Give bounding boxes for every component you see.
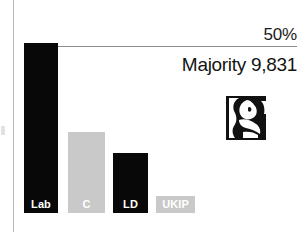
bar-ld[interactable]: LD <box>113 153 148 213</box>
bars-plot-area: Lab C LD UKIP <box>0 0 302 232</box>
bar-lab[interactable]: Lab <box>24 43 58 213</box>
bar-ukip[interactable]: UKIP <box>156 196 195 213</box>
election-result-chart: 50% Majority 9,831 Lab <box>0 0 302 232</box>
bar-label-ld: LD <box>113 197 148 213</box>
bar-c[interactable]: C <box>68 132 105 213</box>
bar-label-ukip: UKIP <box>156 197 195 213</box>
bar-label-lab: Lab <box>24 197 58 213</box>
bar-label-c: C <box>68 197 105 213</box>
